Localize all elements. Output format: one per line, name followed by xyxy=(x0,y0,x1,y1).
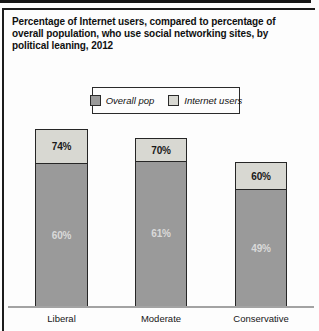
bar-moderate: 70% 61% xyxy=(135,138,187,307)
chart-frame: Percentage of Internet users, compared t… xyxy=(2,8,315,331)
bar-conservative: 60% 49% xyxy=(235,162,287,307)
bar-liberal-overall-pop-value: 60% xyxy=(52,230,71,241)
bar-conservative-overall-pop-value: 49% xyxy=(251,243,270,254)
bar-liberal-overall-pop-segment: 60% xyxy=(36,163,87,306)
legend-item-overall-pop: Overall pop xyxy=(90,95,155,106)
chart-title-line-2: overall population, who use social netwo… xyxy=(12,28,275,40)
bar-moderate-overall-pop-value: 61% xyxy=(151,228,170,239)
legend-label-overall-pop: Overall pop xyxy=(106,95,155,106)
category-label-conservative: Conservative xyxy=(225,313,297,324)
bar-moderate-overall-pop-segment: 61% xyxy=(136,161,186,306)
bar-conservative-internet-users-segment: 60% xyxy=(236,163,286,189)
bar-conservative-overall-pop-segment: 49% xyxy=(236,189,286,306)
category-label-liberal: Liberal xyxy=(25,313,98,324)
top-rule xyxy=(0,0,311,3)
category-label-moderate: Moderate xyxy=(125,313,197,324)
bar-liberal-internet-users-value: 74% xyxy=(52,141,71,152)
legend: Overall pop Internet users xyxy=(92,87,240,114)
chart-title-line-3: political leaning, 2012 xyxy=(12,40,275,52)
internet-users-swatch-icon xyxy=(168,95,179,106)
overall-pop-swatch-icon xyxy=(90,95,101,106)
bar-liberal: 74% 60% xyxy=(35,129,88,307)
bar-conservative-internet-users-value: 60% xyxy=(251,171,270,182)
chart-title: Percentage of Internet users, compared t… xyxy=(12,16,275,52)
legend-item-internet-users: Internet users xyxy=(168,95,242,106)
x-axis-line xyxy=(8,306,314,308)
chart-title-line-1: Percentage of Internet users, compared t… xyxy=(12,16,275,28)
bar-liberal-internet-users-segment: 74% xyxy=(36,130,87,163)
bar-moderate-internet-users-segment: 70% xyxy=(136,139,186,160)
bar-moderate-internet-users-value: 70% xyxy=(151,145,170,156)
legend-label-internet-users: Internet users xyxy=(184,95,242,106)
